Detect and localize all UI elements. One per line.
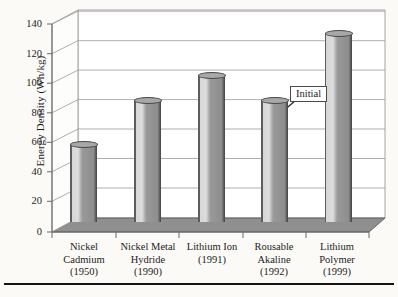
bar-cylinder-body [70,144,97,222]
x-label-line: Nickel Metal [114,241,182,254]
x-label-line: (1999) [306,266,368,279]
bar-top-ellipse [261,97,289,104]
caption-bleed-text [0,288,398,297]
x-label-line: Cadmium [52,254,116,267]
x-label-line: Lithium [306,241,368,254]
y-axis-ticks [47,24,52,232]
x-label-line: Akaline [243,254,305,267]
x-label-line: (1950) [52,266,116,279]
bar-lithium-polymer [325,33,352,222]
bar-cylinder-body [261,100,288,222]
y-tick-label-80: 80 [8,108,42,119]
x-label-line: Polymer [306,254,368,267]
x-label-line: (1991) [181,254,243,267]
bar-cylinder-body [198,75,225,222]
bar-rousable-akaline [261,100,288,222]
x-label-line: Rousable [243,241,305,254]
y-tick-label-140: 140 [8,19,42,30]
initial-annotation-label: Initial [290,86,327,102]
y-tick-label-20: 20 [8,196,42,207]
bar-cylinder-body [134,100,161,222]
chart-figure: Energy Density (Wh/kg) [0,0,398,297]
bar-top-ellipse [198,72,226,79]
bar-nickel-cadmium [70,144,97,222]
x-label-line: Hydride [114,254,182,267]
x-label-line: Lithium Ion [181,241,243,254]
bar-top-ellipse [325,30,353,37]
y-tick-label-40: 40 [8,167,42,178]
x-axis-ticks [52,232,369,238]
x-label-line: (1990) [114,266,182,279]
y-tick-label-120: 120 [8,49,42,60]
bar-top-ellipse [134,97,162,104]
x-label-rousable-akaline: Rousable Akaline (1992) [243,241,305,279]
x-label-line: (1992) [243,266,305,279]
bar-nickel-metal-hydride [134,100,161,222]
x-label-line: Nickel [52,241,116,254]
y-tick-label-60: 60 [8,137,42,148]
bar-top-ellipse [70,141,98,148]
bar-cylinder-body [325,33,352,222]
bar-lithium-ion [198,75,225,222]
x-label-nickel-metal-hydride: Nickel Metal Hydride (1990) [114,241,182,279]
y-tick-label-0: 0 [8,227,42,238]
y-tick-label-100: 100 [8,78,42,89]
figure-bottom-rule [4,283,394,285]
x-label-lithium-ion: Lithium Ion (1991) [181,241,243,266]
x-label-lithium-polymer: Lithium Polymer (1999) [306,241,368,279]
x-label-nickel-cadmium: Nickel Cadmium (1950) [52,241,116,279]
